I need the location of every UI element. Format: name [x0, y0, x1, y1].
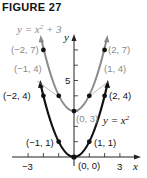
label-point-m2-7: (−2, 7): [11, 44, 39, 55]
point-0-0: [71, 154, 76, 159]
point-m2-4: [41, 93, 46, 98]
label-point-1-1: (1, 1): [94, 137, 116, 148]
point-m2-7: [41, 48, 46, 53]
parabola-chart: (−2, 7) (2, 7) (−1, 4) (1, 4) (0, 3) y =…: [0, 0, 147, 178]
equation-black: y = x2: [102, 114, 130, 126]
y-axis: [72, 34, 79, 166]
point-1-4: [87, 93, 92, 98]
axis-label-x: x: [132, 160, 138, 172]
tick-label-neg3: −3: [22, 161, 33, 172]
y-axis-arrow-icon: [72, 34, 77, 41]
equation-gray: y = x2 + 3: [16, 23, 62, 35]
tick-label-5: 5: [65, 75, 70, 86]
curve-arrow-icon: [104, 35, 109, 43]
point-2-4: [102, 93, 107, 98]
label-point-0-3: (0, 3): [76, 113, 98, 124]
label-point-2-7: (2, 7): [108, 44, 130, 55]
label-point-0-0: (0, 0): [78, 160, 100, 171]
label-point-2-4: (2, 4): [109, 90, 131, 101]
point-m1-4: [56, 93, 61, 98]
point-1-1: [87, 139, 92, 144]
label-point-1-4: (1, 4): [104, 63, 126, 74]
point-2-7: [102, 48, 107, 53]
curve-arrow-icon: [39, 35, 44, 43]
point-m1-1: [56, 139, 61, 144]
label-point-m1-4: (−1, 4): [14, 63, 42, 74]
tick-label-3: 3: [117, 161, 122, 172]
axis-label-y: y: [63, 31, 69, 43]
x-axis-arrow-icon: [134, 155, 141, 160]
label-point-m1-1: (−1, 1): [26, 137, 54, 148]
label-point-m2-4: (−2, 4): [3, 90, 31, 101]
